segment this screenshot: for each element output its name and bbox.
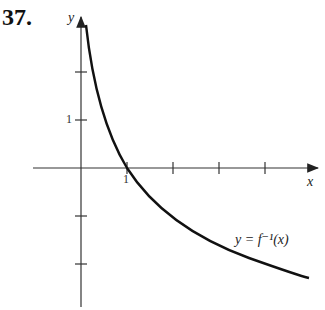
y-axis-label: y xyxy=(68,10,74,26)
y-tick-label-1: 1 xyxy=(66,112,72,127)
curve-label: y = f⁻¹(x) xyxy=(235,231,289,248)
graph xyxy=(0,0,325,310)
x-tick-label-1: 1 xyxy=(123,172,129,187)
x-axis-label: x xyxy=(307,174,313,190)
